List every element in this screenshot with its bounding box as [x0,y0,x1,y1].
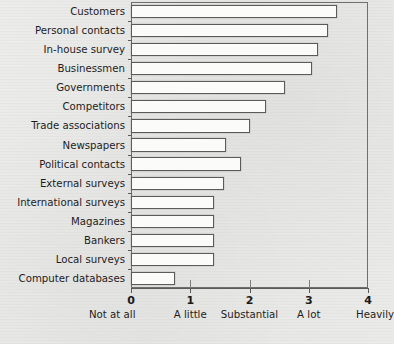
y-axis-label-in-house-survey: In-house survey [0,44,125,55]
y-axis-label-customers: Customers [0,6,125,17]
x-axis-tick-4 [368,288,369,293]
bar-trade-associations [131,119,250,132]
y-axis-category-labels: CustomersPersonal contactsIn-house surve… [0,2,128,288]
bar-competitors [131,100,266,113]
y-axis-tick [128,116,132,117]
y-axis-label-personal-contacts: Personal contacts [0,25,125,36]
y-axis-label-magazines: Magazines [0,216,125,227]
bars-layer [131,2,368,288]
y-axis-label-businessmen: Businessmen [0,63,125,74]
y-axis-tick [128,59,132,60]
bar-magazines [131,215,214,228]
bar-in-house-survey [131,43,318,56]
y-axis-tick [128,231,132,232]
y-axis-label-political-contacts: Political contacts [0,159,125,170]
bar-political-contacts [131,157,241,170]
y-axis-label-trade-associations: Trade associations [0,120,125,131]
y-axis-label-international-surveys: International surveys [0,197,125,208]
y-axis-tick [128,78,132,79]
y-axis-tick [128,212,132,213]
bar-computer-databases [131,272,175,285]
bar-international-surveys [131,196,214,209]
y-axis-label-external-surveys: External surveys [0,178,125,189]
x-axis-number-0: 0 [111,294,151,307]
bar-governments [131,81,285,94]
bar-personal-contacts [131,24,328,37]
x-axis-tick-2 [250,288,251,293]
x-axis-inner-tick-3 [309,280,310,288]
bar-customers [131,5,337,18]
y-axis-label-newspapers: Newspapers [0,140,125,151]
bar-bankers [131,234,214,247]
x-axis-number-1: 1 [170,294,210,307]
x-axis-word-heavily: Heavily [298,309,394,320]
bar-newspapers [131,138,226,151]
x-axis-inner-tick-1 [190,280,191,288]
y-axis-tick [128,250,132,251]
x-axis-tick-1 [190,288,191,293]
x-axis-number-3: 3 [289,294,329,307]
bar-local-surveys [131,253,214,266]
y-axis-label-local-surveys: Local surveys [0,254,125,265]
y-axis-tick [128,21,132,22]
y-axis-tick [128,40,132,41]
y-axis-label-bankers: Bankers [0,235,125,246]
y-axis-tick [128,155,132,156]
y-axis-tick [128,135,132,136]
x-axis-number-2: 2 [230,294,270,307]
y-axis-label-competitors: Competitors [0,101,125,112]
bar-businessmen [131,62,312,75]
x-axis-tick-3 [309,288,310,293]
y-axis-label-governments: Governments [0,82,125,93]
x-axis-inner-tick-2 [250,280,251,288]
y-axis-tick [128,97,132,98]
bar-external-surveys [131,177,224,190]
y-axis-tick [128,174,132,175]
y-axis-label-computer-databases: Computer databases [0,273,125,284]
y-axis-tick [128,269,132,270]
y-axis-tick [128,193,132,194]
x-axis-number-4: 4 [348,294,388,307]
x-axis-tick-0 [131,288,132,293]
